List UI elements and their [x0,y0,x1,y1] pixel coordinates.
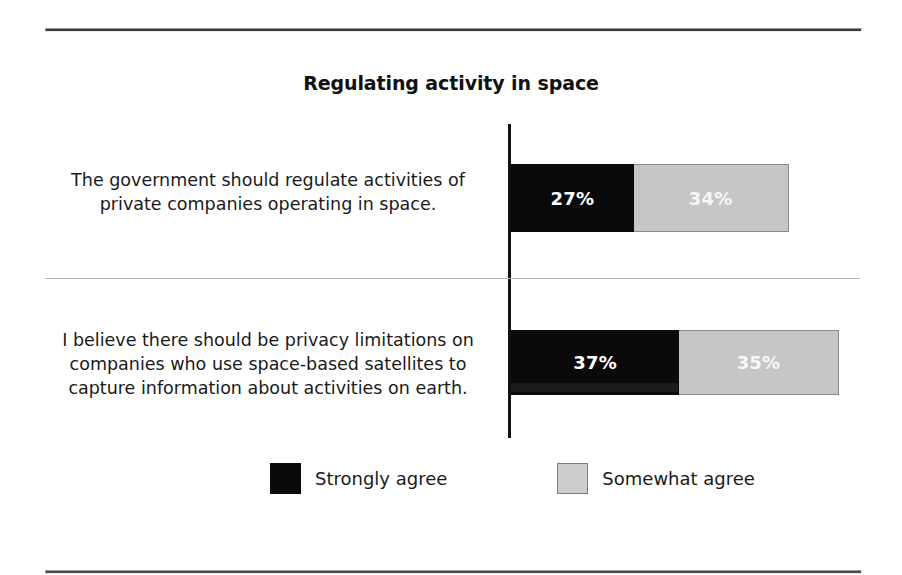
category-label-1: I believe there should be privacy limita… [42,328,494,400]
bottom-divider-rule [45,570,862,574]
chart-canvas: Regulating activity in space The governm… [0,0,902,575]
bar-segment-somewhat-agree-1: 35% [679,330,838,395]
legend-item-somewhat-agree: Somewhat agree [557,463,755,494]
chart-legend: Strongly agree Somewhat agree [270,463,755,494]
legend-label-somewhat-agree: Somewhat agree [602,468,755,489]
chart-title: Regulating activity in space [0,72,902,94]
legend-label-strongly-agree: Strongly agree [315,468,447,489]
category-label-1-line-1: companies who use space-based satellites… [42,352,494,376]
bar-segment-strongly-agree-0: 27% [511,164,634,232]
top-divider-rule [45,28,862,32]
scan-artifact-band [511,383,678,392]
row-separator-line [45,278,860,279]
category-label-0-line-1: private companies operating in space. [42,192,494,216]
category-label-0: The government should regulate activitie… [42,168,494,216]
category-label-1-line-2: capture information about activities on … [42,376,494,400]
bar-value-label-somewhat-agree-0: 34% [689,188,733,209]
legend-swatch-somewhat-agree [557,463,588,494]
bar-value-label-strongly-agree-1: 37% [573,352,617,373]
stacked-bar-row-0: 27% 34% [511,164,789,232]
category-label-0-line-0: The government should regulate activitie… [42,168,494,192]
legend-item-strongly-agree: Strongly agree [270,463,447,494]
bar-segment-somewhat-agree-0: 34% [634,164,789,232]
bar-value-label-somewhat-agree-1: 35% [737,352,781,373]
bar-value-label-strongly-agree-0: 27% [551,188,595,209]
legend-swatch-strongly-agree [270,463,301,494]
category-label-1-line-0: I believe there should be privacy limita… [42,328,494,352]
